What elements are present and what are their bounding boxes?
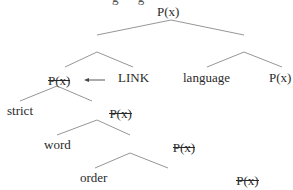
strict-label: strict: [7, 104, 33, 118]
root-node: P(x): [157, 5, 179, 19]
node-px-struck-level2: P(x): [109, 106, 131, 121]
node-px-struck-level3: P(x): [173, 140, 195, 155]
left-arrow-icon: [84, 77, 106, 83]
order-label: order: [80, 171, 107, 185]
language-label: language: [183, 71, 230, 85]
node-px-struck-level1: P(x): [48, 73, 70, 88]
syntax-tree-diagram: g g P(x) P(x) LINK language P(x) strict …: [0, 0, 293, 190]
node-px-right: P(x): [269, 71, 291, 85]
node-px-struck-level4: P(x): [236, 173, 258, 188]
link-label: LINK: [118, 71, 149, 85]
clipped-top-text: g g: [112, 0, 152, 6]
tree-edges: [0, 0, 293, 190]
word-label: word: [44, 138, 71, 152]
